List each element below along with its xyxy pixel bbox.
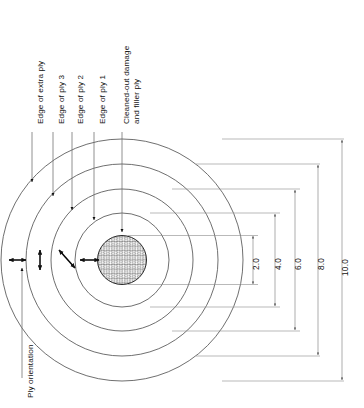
ply-repair-drawing (0, 0, 364, 408)
dimension-label-6-0: 6.0 (293, 258, 303, 270)
ply-orientation-label: Ply orientation (26, 344, 36, 398)
callout-label-edge-ply-1: Edge of ply 1 (98, 75, 108, 124)
dimension-label-4-0: 4.0 (273, 258, 283, 270)
dimension-label-10-0: 10.0 (340, 259, 350, 276)
dimension-extension-lines (128, 139, 344, 381)
ply-orientation-arrows (9, 250, 99, 378)
callout-label-edge-extra-ply: Edge of extra ply (36, 61, 46, 124)
dimension-label-2-0: 2.0 (251, 258, 261, 270)
callout-label-cleaned-out-damage-line1: Cleaned-out damage (122, 46, 132, 124)
callout-label-edge-ply-2: Edge of ply 2 (76, 75, 86, 124)
diagram-canvas: Edge of extra ply Edge of ply 3 Edge of … (0, 0, 364, 408)
callout-leaders (32, 132, 122, 232)
orientation-arrow-ply-2 (59, 250, 75, 268)
dimension-label-8-0: 8.0 (316, 258, 326, 270)
callout-label-edge-ply-3: Edge of ply 3 (57, 75, 67, 124)
cleaned-out-damage-region (98, 236, 147, 285)
callout-label-cleaned-out-damage-line2: and filler ply (132, 79, 142, 124)
